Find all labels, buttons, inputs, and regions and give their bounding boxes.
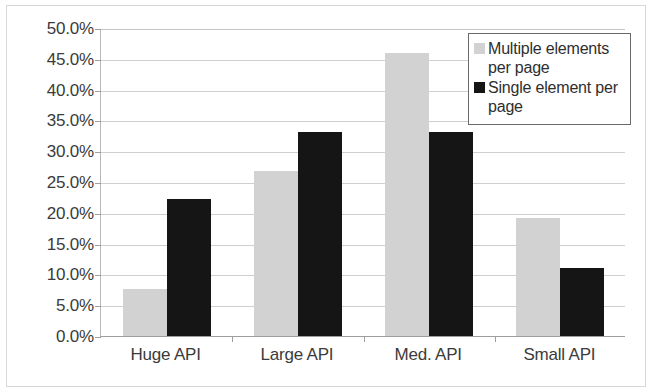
y-axis-tick-label: 5.0% <box>0 296 94 316</box>
y-axis-tick-label: 20.0% <box>0 204 94 224</box>
y-axis-tick-label: 45.0% <box>0 50 94 70</box>
y-axis-tick <box>95 183 101 184</box>
y-axis-tick-label: 25.0% <box>0 173 94 193</box>
y-axis-tick <box>95 245 101 246</box>
legend-swatch-multiple-icon <box>474 43 485 54</box>
y-axis-tick-label: 30.0% <box>0 142 94 162</box>
x-axis-labels: Huge APILarge APIMed. APISmall API <box>100 345 625 377</box>
legend-label-multiple: Multiple elements per page <box>488 39 624 77</box>
y-axis-tick-label: 40.0% <box>0 81 94 101</box>
y-axis-tick <box>95 29 101 30</box>
bar-group <box>232 29 363 336</box>
bar-multiple <box>516 218 560 336</box>
legend-label-single: Single element per page <box>488 78 624 116</box>
x-axis-tick-label: Huge API <box>100 345 231 377</box>
legend-item-single: Single element per page <box>474 78 624 116</box>
legend-swatch-single-icon <box>474 82 485 93</box>
y-axis-tick <box>95 306 101 307</box>
legend-item-multiple: Multiple elements per page <box>474 39 624 77</box>
bar-multiple <box>254 171 298 336</box>
x-axis-tick-label: Large API <box>231 345 362 377</box>
bar-single <box>298 132 342 337</box>
x-axis-tick-label: Small API <box>494 345 625 377</box>
x-axis-tick <box>232 336 233 342</box>
bar-chart: 0.0%5.0%10.0%15.0%20.0%25.0%30.0%35.0%40… <box>0 0 654 392</box>
y-axis-tick-label: 35.0% <box>0 111 94 131</box>
y-axis-tick-label: 50.0% <box>0 19 94 39</box>
bar-group <box>101 29 232 336</box>
bar-multiple <box>123 289 167 336</box>
y-axis-tick-label: 15.0% <box>0 235 94 255</box>
y-axis-tick <box>95 91 101 92</box>
y-axis-labels: 0.0%5.0%10.0%15.0%20.0%25.0%30.0%35.0%40… <box>0 0 94 392</box>
y-axis-tick-label: 0.0% <box>0 327 94 347</box>
y-axis-tick <box>95 214 101 215</box>
y-axis-tick <box>95 275 101 276</box>
bar-single <box>429 132 473 337</box>
y-axis-tick <box>95 337 101 338</box>
bar-single <box>167 199 211 336</box>
bar-multiple <box>385 53 429 336</box>
x-axis-tick <box>495 336 496 342</box>
chart-legend: Multiple elements per page Single elemen… <box>468 33 631 125</box>
x-axis-tick <box>364 336 365 342</box>
y-axis-tick <box>95 152 101 153</box>
y-axis-tick <box>95 121 101 122</box>
y-axis-tick <box>95 60 101 61</box>
x-axis-tick-label: Med. API <box>363 345 494 377</box>
y-axis-tick-label: 10.0% <box>0 265 94 285</box>
bar-single <box>560 268 604 336</box>
